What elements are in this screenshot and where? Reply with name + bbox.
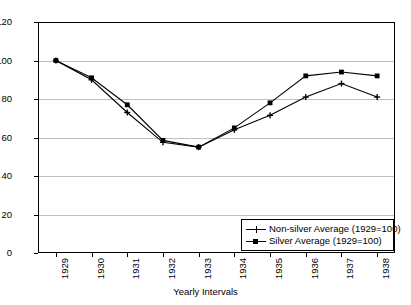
data-point-marker: [269, 112, 270, 118]
legend-item-non-silver: Non-silver Average (1929=100): [246, 223, 388, 235]
x-axis-title: Yearly Intervals: [0, 286, 411, 297]
data-point-marker: [196, 145, 201, 150]
data-point-marker: [89, 75, 94, 80]
cross-marker-icon: [246, 223, 266, 235]
chart-legend: Non-silver Average (1929=100) Silver Ave…: [241, 219, 394, 251]
data-point-marker: [339, 70, 344, 75]
data-point-marker: [268, 100, 273, 105]
series-layer: [0, 0, 411, 305]
data-point-marker: [53, 58, 58, 63]
series-non-silver-average: [53, 58, 380, 151]
legend-item-label: Non-silver Average (1929=100): [266, 223, 401, 235]
legend-item-silver: Silver Average (1929=100): [246, 235, 388, 247]
data-point-marker: [376, 94, 377, 100]
data-point-marker: [127, 109, 128, 115]
data-point-marker: [341, 81, 342, 87]
data-point-marker: [232, 125, 237, 130]
line-chart: 020406080100120 192919301931193219331934…: [0, 0, 411, 305]
series-silver-average: [53, 58, 379, 149]
data-point-marker: [125, 102, 130, 107]
square-marker-icon: [246, 235, 266, 247]
data-point-marker: [161, 138, 166, 143]
data-point-marker: [375, 74, 380, 79]
series-line: [56, 61, 377, 148]
legend-item-label: Silver Average (1929=100): [266, 235, 382, 247]
data-point-marker: [303, 74, 308, 79]
data-point-marker: [305, 94, 306, 100]
